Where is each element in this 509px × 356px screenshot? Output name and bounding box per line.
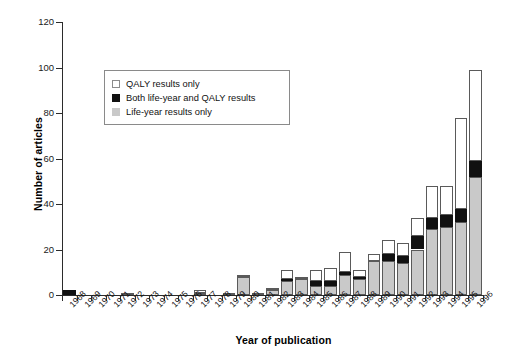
bar-1989: [368, 22, 380, 295]
y-tick-label: 20: [14, 245, 54, 255]
legend-label: QALY results only: [126, 79, 200, 89]
x-tick: [207, 295, 208, 301]
bar-1979: [223, 22, 235, 295]
y-tick: [56, 68, 62, 69]
x-tick: [251, 295, 252, 301]
y-tick: [56, 113, 62, 114]
bar-segment-both: [310, 281, 322, 286]
bar-1996: [469, 22, 481, 295]
x-tick: [439, 295, 440, 301]
bar-1991: [397, 22, 409, 295]
bar-segment-both: [339, 272, 351, 274]
bar-1969: [78, 22, 90, 295]
bar-segment-qaly: [411, 218, 423, 236]
bar-segment-qaly: [281, 270, 293, 279]
x-tick: [309, 295, 310, 301]
x-tick: [120, 295, 121, 301]
legend-item: Both life-year and QALY results: [112, 91, 281, 104]
x-tick: [106, 295, 107, 301]
x-tick: [62, 295, 63, 301]
bar-segment-both: [426, 218, 438, 229]
bar-1993: [426, 22, 438, 295]
x-tick: [280, 295, 281, 301]
bar-segment-both: [382, 254, 394, 261]
bar-segment-qaly: [455, 118, 467, 209]
bar-1975: [165, 22, 177, 295]
bar-segment-qaly: [237, 275, 249, 277]
y-tick-label: 60: [14, 154, 54, 164]
bar-segment-qaly: [440, 186, 452, 216]
bar-segment-qaly: [368, 254, 380, 261]
bar-segment-lifeyr: [440, 227, 452, 295]
x-tick: [410, 295, 411, 301]
x-tick: [352, 295, 353, 301]
bar-1987: [339, 22, 351, 295]
y-tick: [56, 250, 62, 251]
x-tick: [323, 295, 324, 301]
chart-legend: QALY results onlyBoth life-year and QALY…: [104, 70, 290, 125]
bar-segment-both: [324, 281, 336, 286]
legend-label: Both life-year and QALY results: [126, 93, 255, 103]
bar-segment-qaly: [397, 243, 409, 257]
bar-1995: [455, 22, 467, 295]
bar-1988: [353, 22, 365, 295]
x-tick: [483, 295, 484, 301]
x-tick: [178, 295, 179, 301]
legend-swatch-lifeyr: [112, 108, 120, 116]
x-tick: [222, 295, 223, 301]
bar-1986: [324, 22, 336, 295]
bar-segment-qaly: [310, 270, 322, 281]
bar-1971: [107, 22, 119, 295]
bar-segment-qaly: [353, 270, 365, 277]
bar-1974: [150, 22, 162, 295]
legend-item: QALY results only: [112, 77, 281, 90]
legend-swatch-both: [112, 94, 120, 102]
bar-1982: [266, 22, 278, 295]
legend-label: Life-year results only: [126, 107, 212, 117]
x-tick: [468, 295, 469, 301]
bar-1973: [136, 22, 148, 295]
x-tick: [396, 295, 397, 301]
y-tick-label: 40: [14, 199, 54, 209]
x-tick: [135, 295, 136, 301]
bar-segment-qaly: [295, 277, 307, 279]
bar-segment-qaly: [324, 268, 336, 282]
bar-1970: [92, 22, 104, 295]
bar-segment-both: [440, 215, 452, 226]
bar-segment-lifeyr: [469, 177, 481, 295]
y-tick: [56, 204, 62, 205]
bar-segment-both: [281, 279, 293, 281]
bar-segment-lifeyr: [411, 250, 423, 296]
bar-1994: [440, 22, 452, 295]
bar-1981: [252, 22, 264, 295]
x-tick: [381, 295, 382, 301]
y-tick-label: 100: [14, 63, 54, 73]
y-tick: [56, 22, 62, 23]
bar-segment-both: [469, 161, 481, 177]
bar-segment-both: [397, 256, 409, 263]
bar-1990: [382, 22, 394, 295]
bar-1968: [63, 22, 75, 295]
y-tick-label: 0: [14, 290, 54, 300]
bar-1978: [208, 22, 220, 295]
bar-chart: Number of articles 020406080100120 19681…: [0, 0, 509, 356]
x-tick: [425, 295, 426, 301]
bar-segment-qaly: [426, 186, 438, 218]
bar-segment-lifeyr: [455, 222, 467, 295]
x-tick: [294, 295, 295, 301]
bar-1972: [121, 22, 133, 295]
bar-1985: [310, 22, 322, 295]
y-tick-label: 80: [14, 108, 54, 118]
bar-1984: [295, 22, 307, 295]
x-axis-title: Year of publication: [0, 334, 509, 346]
bar-segment-qaly: [339, 252, 351, 272]
y-tick-label: 120: [14, 17, 54, 27]
legend-item: Life-year results only: [112, 105, 281, 118]
bar-1980: [237, 22, 249, 295]
x-tick: [265, 295, 266, 301]
bar-segment-lifeyr: [426, 229, 438, 295]
bar-segment-qaly: [469, 70, 481, 161]
legend-swatch-qaly: [112, 80, 120, 88]
x-tick: [454, 295, 455, 301]
bar-segment-qaly: [382, 240, 394, 254]
